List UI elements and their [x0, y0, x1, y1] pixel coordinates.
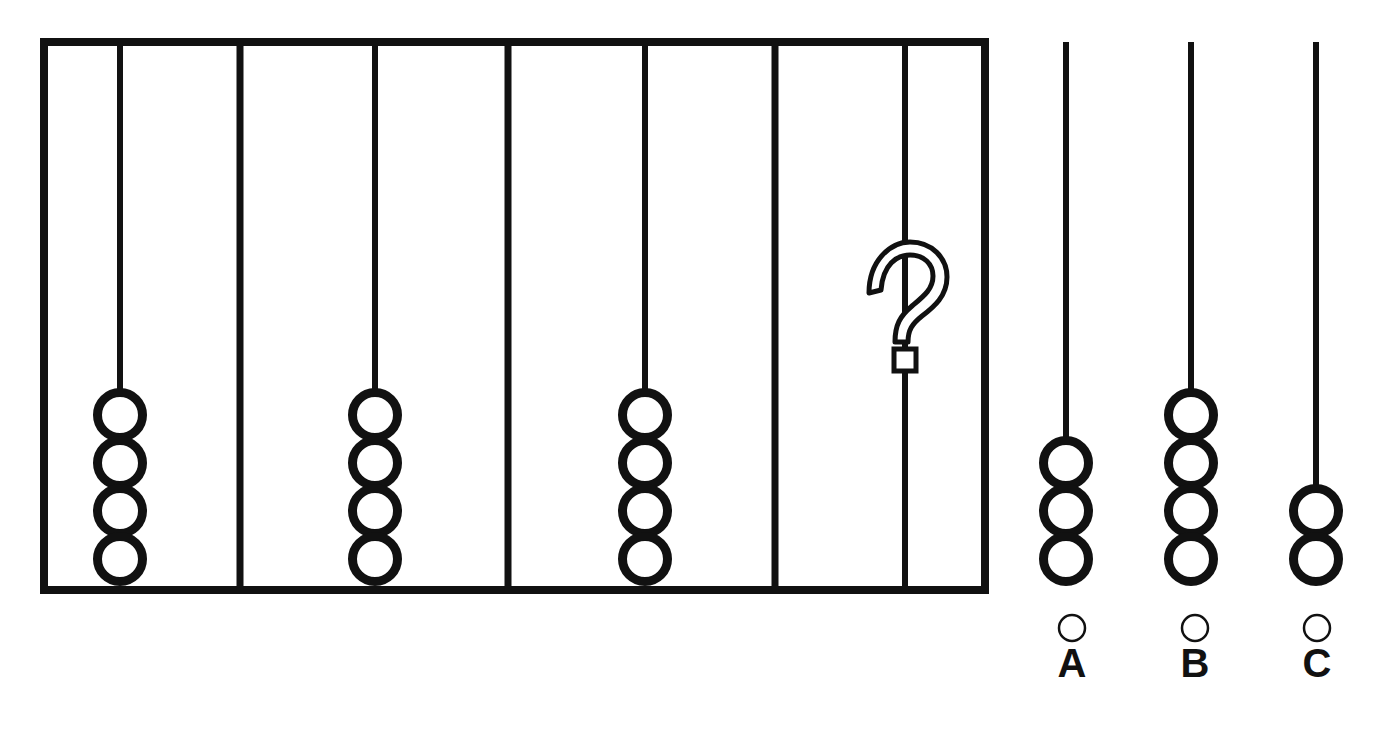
question-mark-dot	[894, 349, 916, 371]
sequence-panel-2	[353, 46, 398, 582]
sequence-panel-3-bead-3	[623, 489, 668, 534]
answer-option-a-letter: A	[1042, 643, 1102, 683]
sequence-panel-1-bead-2	[98, 441, 143, 486]
answer-option-b-letter: B	[1165, 643, 1225, 683]
sequence-panel-2-bead-4	[353, 537, 398, 582]
frame-border	[44, 42, 985, 590]
answer-option-c-bead-1	[1294, 489, 1339, 534]
sequence-panel-1-bead-1	[98, 393, 143, 438]
puzzle-canvas: ABC	[0, 0, 1381, 729]
answer-option-b-bead-4	[1169, 537, 1214, 582]
sequence-panel-1	[98, 46, 143, 582]
sequence-panel-2-bead-3	[353, 489, 398, 534]
answer-option-b-bead-2	[1169, 441, 1214, 486]
sequence-panel-1-bead-3	[98, 489, 143, 534]
sequence-panel-3-bead-1	[623, 393, 668, 438]
sequence-panel-2-bead-2	[353, 441, 398, 486]
answer-option-c-bubble[interactable]	[1304, 615, 1330, 641]
answer-option-b-bubble[interactable]	[1182, 615, 1208, 641]
sequence-frame	[44, 42, 985, 590]
answer-option-a-bead-3	[1044, 537, 1089, 582]
sequence-panel-3	[623, 46, 668, 582]
answer-option-b-bead-1	[1169, 393, 1214, 438]
answer-option-a-bubble[interactable]	[1059, 615, 1085, 641]
sequence-panels	[98, 46, 906, 586]
answer-options	[1044, 42, 1339, 641]
sequence-panel-1-bead-4	[98, 537, 143, 582]
answer-option-c-letter: C	[1287, 643, 1347, 683]
answer-option-c[interactable]	[1294, 42, 1339, 582]
sequence-panel-2-bead-1	[353, 393, 398, 438]
answer-option-b[interactable]	[1169, 42, 1214, 582]
sequence-panel-3-bead-2	[623, 441, 668, 486]
answer-option-a-bead-1	[1044, 441, 1089, 486]
bead-puzzle-illustration	[0, 0, 1381, 729]
answer-option-a[interactable]	[1044, 42, 1089, 582]
answer-option-b-bead-3	[1169, 489, 1214, 534]
answer-option-a-bead-2	[1044, 489, 1089, 534]
sequence-panel-3-bead-4	[623, 537, 668, 582]
answer-option-c-bead-2	[1294, 537, 1339, 582]
